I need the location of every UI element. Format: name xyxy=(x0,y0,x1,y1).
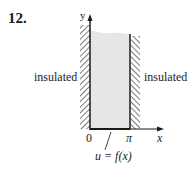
right-insulation-hatch xyxy=(131,36,140,129)
x-axis-label: x xyxy=(157,131,162,146)
leader-line xyxy=(105,132,111,150)
y-axis-arrow-icon xyxy=(88,14,93,21)
bottom-condition-label: u = f(x) xyxy=(95,149,132,164)
pi-tick-label: π xyxy=(126,131,132,146)
right-insulated-label: insulated xyxy=(144,70,187,85)
strip-region xyxy=(90,30,130,129)
origin-tick-label: 0 xyxy=(86,131,92,146)
left-insulated-label: insulated xyxy=(34,70,77,85)
y-axis-label: y xyxy=(80,9,86,21)
left-insulation-hatch xyxy=(80,25,90,129)
